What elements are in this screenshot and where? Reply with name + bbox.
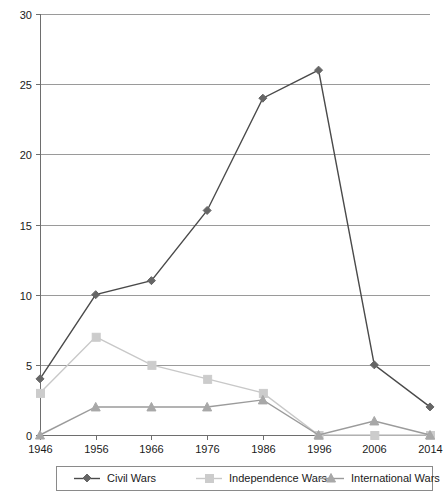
axis-lines xyxy=(40,14,430,436)
y-tick-label: 10 xyxy=(20,290,32,302)
data-series xyxy=(36,66,435,439)
x-tick-label: 1996 xyxy=(307,443,331,455)
x-tick-label: 1956 xyxy=(84,443,108,455)
series-line xyxy=(40,70,430,407)
line-chart: 051015202530 194619561966197619861996200… xyxy=(0,0,444,494)
series-civil-wars xyxy=(36,66,434,411)
x-axis-ticks: 19461956196619761986199620062014 xyxy=(28,435,442,455)
data-point-marker xyxy=(315,66,323,74)
legend-label: Civil Wars xyxy=(107,472,157,484)
y-tick-label: 0 xyxy=(26,430,32,442)
chart-canvas: 051015202530 194619561966197619861996200… xyxy=(0,0,444,494)
data-point-marker xyxy=(259,94,267,102)
y-tick-label: 15 xyxy=(20,220,32,232)
x-tick-label: 2014 xyxy=(418,443,442,455)
y-tick-label: 30 xyxy=(20,9,32,21)
data-point-marker xyxy=(204,375,212,383)
data-point-marker xyxy=(36,431,45,440)
legend-label: Independence Wars xyxy=(229,472,328,484)
y-tick-label: 5 xyxy=(26,360,32,372)
x-tick-label: 2006 xyxy=(362,443,386,455)
data-point-marker xyxy=(36,375,44,383)
y-axis-ticks: 051015202530 xyxy=(20,9,40,442)
data-point-marker xyxy=(206,475,214,483)
x-tick-label: 1966 xyxy=(139,443,163,455)
data-point-marker xyxy=(148,361,156,369)
data-point-marker xyxy=(370,416,379,425)
y-tick-label: 25 xyxy=(20,79,32,91)
legend-label: International Wars xyxy=(351,472,440,484)
data-point-marker xyxy=(327,474,336,483)
x-tick-label: 1986 xyxy=(251,443,275,455)
x-tick-label: 1946 xyxy=(28,443,52,455)
data-point-marker xyxy=(92,333,100,341)
x-tick-label: 1976 xyxy=(195,443,219,455)
y-tick-label: 20 xyxy=(20,149,32,161)
data-point-marker xyxy=(37,389,45,397)
series-line xyxy=(40,400,430,435)
chart-legend: Civil WarsIndependence WarsInternational… xyxy=(57,467,441,491)
data-point-marker xyxy=(92,291,100,299)
data-point-marker xyxy=(83,474,91,482)
gridlines xyxy=(40,15,430,366)
data-point-marker xyxy=(371,432,379,440)
